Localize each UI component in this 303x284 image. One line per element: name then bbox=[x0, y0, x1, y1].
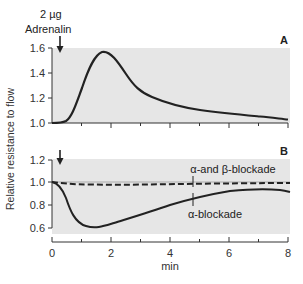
panel-b-xtick-2: 2 bbox=[108, 247, 114, 259]
legend-alpha-blockade: α-blockade bbox=[188, 208, 242, 220]
panel-a-y-axis bbox=[48, 48, 52, 123]
panel-b-xtick-0: 0 bbox=[49, 247, 55, 259]
panel-a-ytick-1.6: 1.6 bbox=[30, 42, 45, 54]
legend-alpha-beta-blockade: α-and β-blockade bbox=[190, 163, 275, 175]
annotation-dose: 2 µg bbox=[40, 8, 62, 20]
x-axis-label: min bbox=[161, 260, 179, 272]
panel-b-ytick-0.6: 0.6 bbox=[30, 222, 45, 234]
panel-b-xtick-8: 8 bbox=[285, 247, 291, 259]
panel-b-label: B bbox=[280, 145, 288, 157]
panel-a-x-axis bbox=[52, 123, 288, 128]
panel-b-ytick-0.8: 0.8 bbox=[30, 199, 45, 211]
annotation-drug: Adrenalin bbox=[25, 23, 71, 35]
panel-b-xtick-4: 4 bbox=[167, 247, 173, 259]
panel-a-ytick-1.0: 1.0 bbox=[30, 117, 45, 129]
y-axis-label: Relative resistance to flow bbox=[4, 88, 16, 210]
panel-b-ytick-1.0: 1.0 bbox=[30, 176, 45, 188]
panel-b-y-axis bbox=[48, 160, 52, 228]
panel-b-x-axis bbox=[52, 237, 288, 242]
panel-a-ytick-1.4: 1.4 bbox=[30, 67, 45, 79]
panel-b-xtick-6: 6 bbox=[226, 247, 232, 259]
panel-b-ytick-1.2: 1.2 bbox=[30, 154, 45, 166]
panel-a-plot-area bbox=[52, 48, 290, 123]
figure: Relative resistance to flow 2 µg Adrenal… bbox=[0, 0, 303, 284]
panel-a-ytick-1.2: 1.2 bbox=[30, 92, 45, 104]
panel-a-label: A bbox=[280, 34, 288, 46]
